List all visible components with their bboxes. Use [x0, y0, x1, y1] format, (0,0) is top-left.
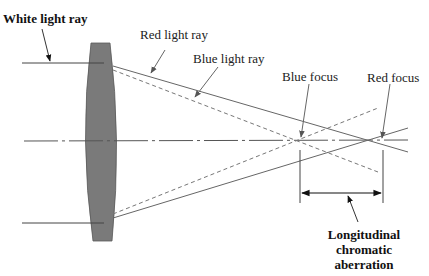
blue-focus-label: Blue focus	[282, 70, 338, 83]
red-focus-pointer	[382, 84, 390, 138]
aberration-label-line2: chromatic	[318, 242, 410, 257]
white-ray-pointer	[42, 29, 50, 61]
lens	[85, 43, 116, 241]
blue-ray-bottom	[113, 108, 378, 214]
blue-ray-pointer	[195, 67, 218, 97]
aberration-label-line3: aberration	[318, 257, 410, 272]
red-focus-label: Red focus	[367, 71, 419, 84]
blue-ray-top	[113, 70, 378, 172]
red-ray-pointer	[151, 50, 165, 73]
chromatic-aberration-diagram: White light ray Red light ray Blue light…	[0, 0, 429, 276]
white-light-ray-label: White light ray	[3, 12, 88, 25]
aberration-pointer	[348, 196, 358, 222]
aberration-label-line1: Longitudinal	[318, 227, 410, 242]
blue-light-ray-label: Blue light ray	[193, 52, 265, 65]
red-ray-top	[113, 66, 408, 152]
longitudinal-chromatic-aberration-label: Longitudinal chromatic aberration	[318, 227, 410, 272]
blue-focus-pointer	[301, 84, 309, 137]
red-light-ray-label: Red light ray	[140, 28, 208, 41]
red-ray-bottom	[113, 128, 408, 218]
optical-axis	[24, 140, 408, 141]
